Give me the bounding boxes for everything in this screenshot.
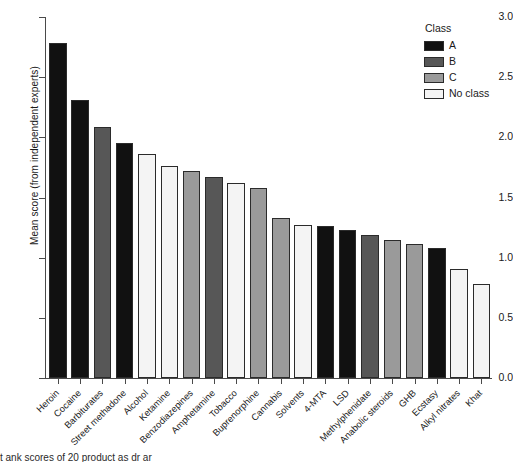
- legend-label: A: [449, 40, 456, 51]
- legend-label: No class: [449, 88, 489, 99]
- x-tick-mark: [281, 379, 282, 384]
- bar-alkyl-nitrates: [450, 269, 468, 379]
- bar-benzodiazepines: [183, 171, 201, 378]
- bar-alcohol: [138, 154, 156, 378]
- legend-item-a: A: [424, 38, 510, 53]
- bar-tobacco: [227, 183, 245, 378]
- x-tick-mark: [370, 379, 371, 384]
- bar-ecstasy: [428, 248, 446, 378]
- x-tick-mark: [58, 379, 59, 384]
- x-tick-mark: [415, 379, 416, 384]
- y-axis-label: Mean score (from independent experts): [29, 26, 40, 286]
- legend-title: Class: [425, 22, 510, 34]
- legend-rows: ABCNo class: [424, 38, 510, 101]
- x-tick-mark: [258, 379, 259, 384]
- figure-caption: t ank scores of 20 product as dr ar: [0, 452, 513, 462]
- x-tick-mark: [459, 379, 460, 384]
- bar-street-methadone: [116, 143, 134, 378]
- x-tick-mark: [214, 379, 215, 384]
- bar-methylphenidate: [361, 235, 379, 378]
- legend-item-b: B: [424, 54, 510, 69]
- legend-swatch-icon: [424, 89, 444, 99]
- legend-swatch-icon: [424, 41, 444, 51]
- x-tick-mark: [192, 379, 193, 384]
- bar-cannabis: [272, 218, 290, 378]
- x-tick-mark: [437, 379, 438, 384]
- x-tick-mark: [80, 379, 81, 384]
- legend-item-c: C: [424, 70, 510, 85]
- legend-label: C: [449, 72, 457, 83]
- x-tick-mark: [236, 379, 237, 384]
- bar-khat: [473, 284, 491, 378]
- bar-cocaine: [71, 100, 89, 378]
- bar-4-mta: [317, 226, 335, 378]
- bar-amphetamine: [205, 177, 223, 378]
- x-tick-mark: [392, 379, 393, 384]
- bar-ketamine: [161, 166, 179, 378]
- x-label-khat: Khat: [464, 388, 485, 409]
- x-tick-mark: [102, 379, 103, 384]
- bar-heroin: [49, 43, 67, 378]
- bar-solvents: [294, 225, 312, 378]
- x-tick-mark: [169, 379, 170, 384]
- legend-item-no-class: No class: [424, 86, 510, 101]
- bar-buprenorphine: [250, 188, 268, 378]
- x-tick-mark: [348, 379, 349, 384]
- x-tick-mark: [125, 379, 126, 384]
- x-tick-mark: [303, 379, 304, 384]
- legend: Class ABCNo class: [424, 22, 510, 102]
- x-tick-mark: [325, 379, 326, 384]
- x-label-4-mta: 4-MTA: [302, 388, 328, 414]
- legend-swatch-icon: [424, 73, 444, 83]
- bar-barbiturates: [94, 127, 112, 378]
- x-axis-line: [45, 378, 492, 379]
- x-tick-mark: [147, 379, 148, 384]
- legend-label: B: [449, 56, 456, 67]
- bar-anabolic-steroids: [384, 240, 402, 378]
- bar-ghb: [406, 244, 424, 378]
- x-tick-mark: [481, 379, 482, 384]
- bar-lsd: [339, 230, 357, 378]
- legend-swatch-icon: [424, 57, 444, 67]
